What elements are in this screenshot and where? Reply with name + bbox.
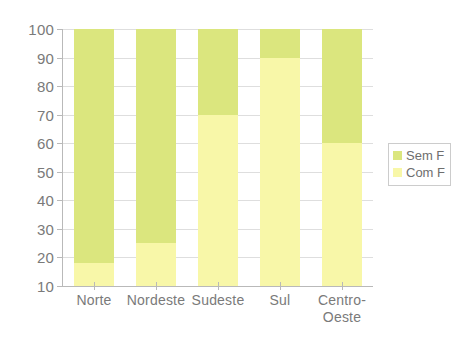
y-axis-tick-label: 90 <box>10 51 54 66</box>
legend-item[interactable]: Com F <box>393 164 445 181</box>
y-axis-tick-mark <box>57 29 63 30</box>
plot-area <box>63 29 373 286</box>
y-axis-tick-label: 40 <box>10 193 54 208</box>
x-axis-tick-mark <box>280 282 281 290</box>
x-axis-tick-mark <box>94 282 95 290</box>
x-axis-tick-label-line: Norte <box>63 292 125 309</box>
bar-segment-sem-f <box>260 29 300 58</box>
bar-segment-sem-f <box>74 29 114 263</box>
y-axis-tick-mark <box>57 257 63 258</box>
bar-segment-com-f <box>136 243 176 286</box>
y-axis-tick-mark <box>57 58 63 59</box>
legend-item[interactable]: Sem F <box>393 147 445 164</box>
y-axis-tick-label: 50 <box>10 165 54 180</box>
x-axis-tick-labels: NorteNordesteSudesteSulCentro-Oeste <box>63 292 373 338</box>
x-axis-tick-label-line: Oeste <box>311 309 373 326</box>
bar-segment-sem-f <box>198 29 238 115</box>
x-axis-tick-mark <box>218 282 219 290</box>
legend-swatch-icon <box>393 168 402 177</box>
y-axis-tick-mark <box>57 86 63 87</box>
x-axis-tick-label-line: Nordeste <box>125 292 187 309</box>
x-axis-tick-label: Nordeste <box>125 292 187 309</box>
legend-swatch-icon <box>393 151 402 160</box>
y-axis-tick-label: 60 <box>10 136 54 151</box>
y-axis-tick-labels: 100908070605040302010 <box>10 20 54 282</box>
y-axis-tick-mark <box>57 172 63 173</box>
legend-item-label: Com F <box>406 166 445 179</box>
y-axis-tick-label: 10 <box>10 279 54 294</box>
bar-norte <box>74 29 114 286</box>
x-axis-tick-label-line: Centro- <box>311 292 373 309</box>
y-axis-tick-label: 100 <box>10 22 54 37</box>
bar-segment-com-f <box>198 115 238 286</box>
bar-segment-sem-f <box>322 29 362 143</box>
x-axis-tick-mark <box>156 282 157 290</box>
x-axis-tick-label: Centro-Oeste <box>311 292 373 326</box>
bar-segment-com-f <box>322 143 362 286</box>
y-axis-tick-mark <box>57 229 63 230</box>
y-axis-tick-mark <box>57 143 63 144</box>
y-axis-tick-label: 70 <box>10 108 54 123</box>
y-axis-tick-mark <box>57 200 63 201</box>
x-axis-tick-label: Norte <box>63 292 125 309</box>
x-axis-tick-label-line: Sul <box>249 292 311 309</box>
x-axis-tick-label: Sul <box>249 292 311 309</box>
stacked-bar-chart: 100908070605040302010 NorteNordesteSudes… <box>0 0 465 341</box>
x-axis-tick-mark <box>342 282 343 290</box>
bar-sudeste <box>198 29 238 286</box>
bar-segment-com-f <box>260 58 300 286</box>
x-axis-tick-label: Sudeste <box>187 292 249 309</box>
x-axis-tick-label-line: Sudeste <box>187 292 249 309</box>
y-axis-tick-mark <box>57 115 63 116</box>
y-axis-tick-label: 20 <box>10 250 54 265</box>
bar-nordeste <box>136 29 176 286</box>
chart-legend: Sem FCom F <box>388 143 451 186</box>
legend-item-label: Sem F <box>406 149 444 162</box>
y-axis-tick-label: 80 <box>10 79 54 94</box>
y-axis-tick-mark <box>57 286 63 287</box>
bar-segment-sem-f <box>136 29 176 243</box>
bar-sul <box>260 29 300 286</box>
bar-centro-oeste <box>322 29 362 286</box>
y-axis-tick-label: 30 <box>10 222 54 237</box>
